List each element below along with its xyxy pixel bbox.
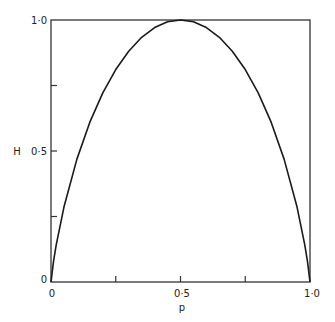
y-tick-label-0-5: 0·5 [31,146,47,157]
y-tick-label-1: 1·0 [31,15,47,26]
x-tick-label-0: 0 [49,288,55,299]
y-axis-label: H [13,146,21,157]
x-axis-ticks [116,276,246,282]
plot-frame [51,20,310,282]
x-axis-label: p [179,302,185,313]
entropy-chart: 1·0 0·5 0 H 0 0·5 1·0 p [0,0,335,322]
entropy-curve [51,20,310,282]
x-tick-label-0-5: 0·5 [174,288,190,299]
y-axis-ticks [51,86,57,217]
y-tick-label-0: 0 [41,274,47,285]
x-tick-label-1: 1·0 [304,288,320,299]
